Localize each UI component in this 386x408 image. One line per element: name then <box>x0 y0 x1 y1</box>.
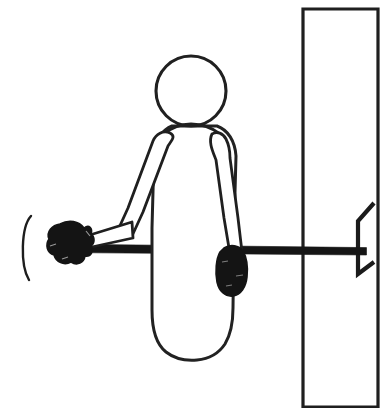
wall-bracket <box>358 203 374 274</box>
right-hand-grip <box>216 246 247 297</box>
motion-arc-stroke <box>23 216 31 280</box>
wall-bracket-lower-prong <box>358 252 374 274</box>
motion-arc <box>23 216 31 280</box>
right-hand-blob <box>216 246 247 297</box>
left-hand-grip <box>47 221 94 264</box>
head-outline <box>156 56 226 126</box>
head <box>156 56 226 126</box>
left-hand-blob <box>47 221 94 264</box>
wall-bracket-upper-prong <box>358 203 374 248</box>
illustration-svg <box>0 0 386 408</box>
illustration-canvas: Bar rotation exercise with door-frame mo… <box>0 0 386 408</box>
